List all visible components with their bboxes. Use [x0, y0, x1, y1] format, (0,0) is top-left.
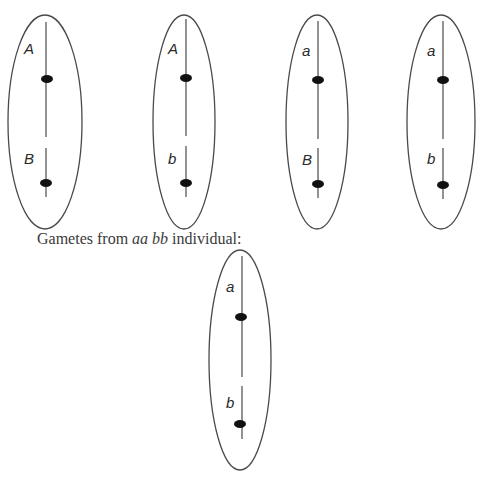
gamete-Ab: A b — [153, 15, 215, 229]
allele-label-lower: B — [24, 150, 34, 167]
allele-label-upper: A — [167, 40, 178, 57]
gamete-AB: A B — [8, 15, 82, 229]
allele-label-lower: b — [427, 150, 435, 167]
allele-label-lower: b — [226, 394, 234, 411]
locus-dot-lower — [40, 179, 52, 187]
caption-prefix: Gametes from — [37, 230, 132, 247]
caption-suffix: individual: — [168, 230, 241, 247]
allele-label-upper: a — [302, 42, 310, 59]
caption-gametes-from-aabb: Gametes from aa bb individual: — [37, 230, 241, 248]
caption-genotype: aa bb — [132, 230, 168, 247]
locus-dot-lower — [234, 420, 246, 428]
locus-dot-upper — [312, 76, 324, 84]
locus-dot-upper — [41, 75, 53, 83]
allele-label-upper: A — [23, 40, 34, 57]
allele-label-lower: b — [168, 150, 176, 167]
cell-outline — [286, 15, 348, 229]
allele-label-upper: a — [427, 42, 435, 59]
locus-dot-lower — [437, 181, 449, 189]
gamete-aB: a B — [286, 15, 348, 229]
locus-dot-upper — [437, 76, 449, 84]
gamete-ab: a b — [407, 15, 475, 229]
locus-dot-upper — [235, 313, 247, 321]
allele-label-upper: a — [226, 278, 234, 295]
gamete-ab-tester: a b — [209, 250, 271, 470]
locus-dot-lower — [180, 179, 192, 187]
cell-outline — [407, 15, 475, 229]
cell-outline — [153, 15, 215, 229]
cell-outline — [209, 250, 271, 470]
cell-outline — [8, 15, 82, 229]
allele-label-lower: B — [302, 151, 312, 168]
locus-dot-lower — [312, 180, 324, 188]
locus-dot-upper — [180, 74, 192, 82]
